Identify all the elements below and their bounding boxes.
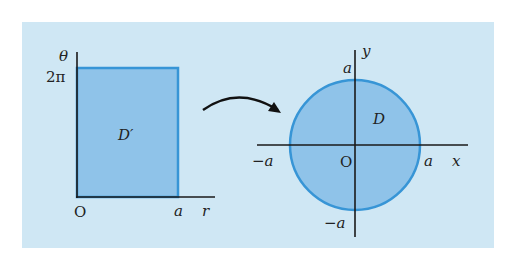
polar-mapping-diagram: θ 2π D′ O a r y a D −a O a x −a: [0, 0, 514, 257]
region-d-label: D: [372, 110, 385, 128]
two-pi-tick-label: 2π: [46, 68, 66, 86]
left-neg-a-tick-label: −a: [252, 152, 274, 170]
r-axis-label: r: [202, 202, 210, 220]
theta-axis-label: θ: [59, 47, 68, 65]
bottom-neg-a-tick-label: −a: [324, 214, 346, 232]
right-origin-label: O: [340, 153, 352, 171]
top-a-tick-label: a: [343, 59, 352, 77]
r-tick-label: a: [174, 202, 183, 220]
right-a-tick-label: a: [424, 152, 433, 170]
y-axis-label: y: [361, 42, 371, 60]
x-axis-label: x: [452, 152, 461, 170]
region-d-prime-label: D′: [117, 126, 134, 144]
left-origin-label: O: [74, 203, 86, 221]
